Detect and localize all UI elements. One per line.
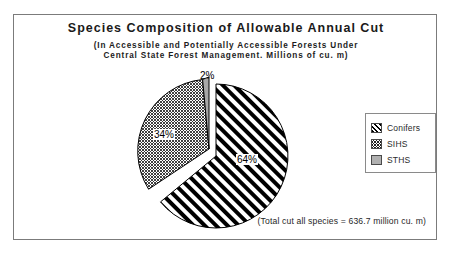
chart-frame: Species Composition of Allowable Annual … <box>13 14 437 240</box>
legend-item-sihs: SIHS <box>371 136 435 152</box>
legend-item-conifers: Conifers <box>371 120 435 136</box>
legend-swatch-sihs-icon <box>371 139 382 149</box>
pie-label-sihs: 34% <box>153 129 175 140</box>
chart-screenshot: Species Composition of Allowable Annual … <box>0 0 451 259</box>
chart-footnote-total: (Total cut all species = 636.7 million c… <box>14 216 426 226</box>
legend-item-sths: STHS <box>371 152 435 168</box>
legend-label-sihs: SIHS <box>387 139 408 149</box>
chart-legend: Conifers SIHS STHS <box>365 113 436 173</box>
pie-label-conifers: 64% <box>236 154 258 165</box>
legend-label-sths: STHS <box>387 155 410 165</box>
pie-label-sths: 2% <box>200 70 214 81</box>
legend-label-conifers: Conifers <box>387 123 420 133</box>
legend-swatch-conifers-icon <box>371 123 382 133</box>
legend-swatch-sths-icon <box>371 155 382 165</box>
